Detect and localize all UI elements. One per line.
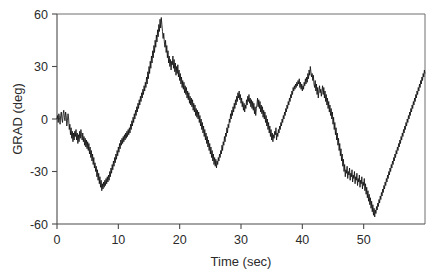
grad-time-line-chart: -60-3003060 01020304050 Time (sec) GRAD … — [0, 0, 442, 276]
y-tick-label: -60 — [30, 218, 48, 232]
x-tick-label: 40 — [295, 233, 309, 247]
x-tick-label: 50 — [357, 233, 371, 247]
grad-series-line — [57, 18, 425, 218]
x-tick-label: 10 — [111, 233, 125, 247]
chart-figure: -60-3003060 01020304050 Time (sec) GRAD … — [0, 0, 442, 276]
x-tick-label: 30 — [234, 233, 248, 247]
y-tick-label: -30 — [30, 165, 48, 179]
y-axis-tick-labels: -60-3003060 — [30, 8, 48, 232]
y-tick-label: 60 — [34, 8, 48, 22]
x-tick-label: 0 — [54, 233, 61, 247]
x-axis-title: Time (sec) — [211, 254, 272, 269]
x-axis-tick-labels: 01020304050 — [54, 233, 371, 247]
x-axis-ticks — [57, 224, 364, 229]
y-axis-title: GRAD (deg) — [10, 83, 25, 155]
y-tick-label: 0 — [41, 113, 48, 127]
y-tick-label: 30 — [34, 60, 48, 74]
y-axis-ticks — [52, 14, 57, 224]
plot-frame — [57, 14, 425, 224]
x-tick-label: 20 — [173, 233, 187, 247]
